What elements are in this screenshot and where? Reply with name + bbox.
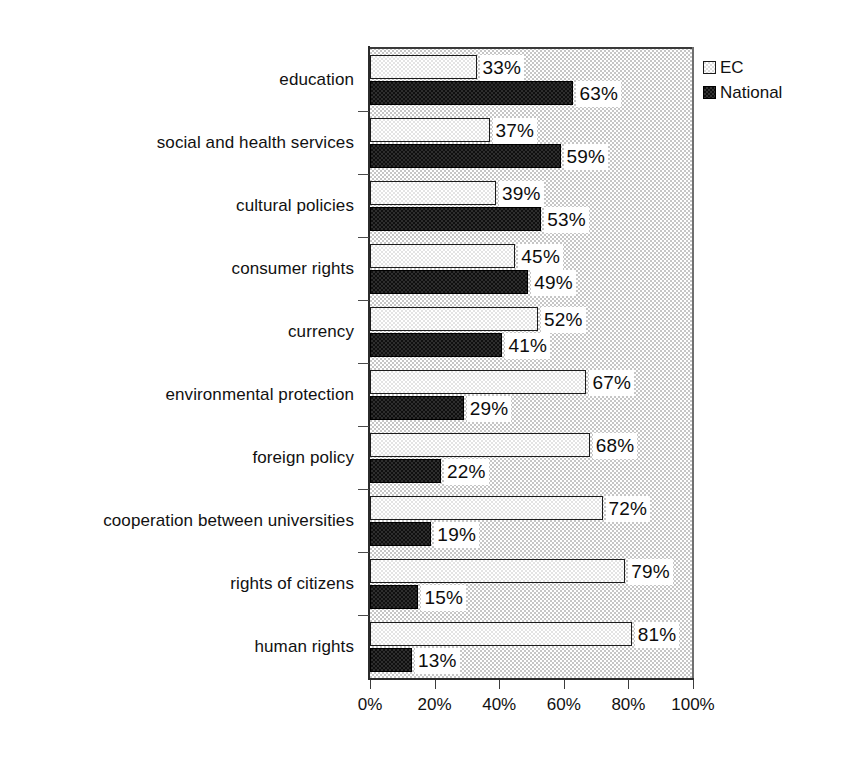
bar-ec [370,244,515,268]
legend-label-national: National [720,83,782,103]
bar-national [370,144,561,168]
bar-ec [370,559,625,583]
x-axis-tick-label: 0% [358,694,383,716]
data-label-national: 29% [467,396,512,422]
x-axis-tick-label: 40% [482,694,516,716]
x-axis-tick [628,680,629,689]
bar-ec [370,370,586,394]
x-axis-tick-label: 100% [671,694,714,716]
y-axis-tick [358,174,369,175]
x-axis-tick [693,680,694,689]
data-label-ec: 45% [518,244,563,270]
y-axis-tick [358,426,369,427]
category-axis-labels: educationsocial and health servicescultu… [0,48,362,678]
x-axis-tick-label: 80% [611,694,645,716]
category-label: cultural policies [0,196,354,216]
bar-ec [370,181,496,205]
data-label-ec: 33% [480,55,525,81]
y-axis-tick [358,489,369,490]
x-axis-tick [499,680,500,689]
bar-national [370,648,412,672]
category-label: consumer rights [0,259,354,279]
x-axis-tick [370,680,371,689]
legend-label-ec: EC [720,58,744,78]
bar-national [370,396,464,420]
bar-national [370,333,502,357]
bar-ec [370,55,477,79]
data-label-ec: 52% [541,307,586,333]
data-label-national: 49% [531,270,576,296]
data-label-ec: 72% [606,496,651,522]
category-label: social and health services [0,133,354,153]
y-axis-tick [358,237,369,238]
y-axis-tick [358,615,369,616]
x-axis-tick [435,680,436,689]
ec-swatch-icon [703,61,716,74]
data-label-ec: 68% [593,433,638,459]
national-swatch-icon [703,86,716,99]
plot-top-border [370,47,694,49]
bar-chart: educationsocial and health servicescultu… [0,0,858,768]
y-axis-tick [358,300,369,301]
chart-legend: EC National [703,55,843,105]
bar-national [370,585,418,609]
bar-national [370,522,431,546]
data-label-ec: 67% [589,370,634,396]
bar-national [370,270,528,294]
x-axis-tick [564,680,565,689]
category-label: environmental protection [0,385,354,405]
bar-ec [370,307,538,331]
legend-item-national: National [703,80,843,105]
data-label-national: 22% [444,459,489,485]
bar-national [370,81,573,105]
data-label-national: 13% [415,648,460,674]
category-label: human rights [0,637,354,657]
y-axis-tick [358,363,369,364]
data-label-national: 15% [421,585,466,611]
data-label-national: 63% [576,81,621,107]
category-label: foreign policy [0,448,354,468]
bar-ec [370,496,603,520]
bar-ec [370,622,632,646]
data-label-ec: 39% [499,181,544,207]
data-label-national: 53% [544,207,589,233]
data-label-national: 19% [434,522,479,548]
category-label: currency [0,322,354,342]
category-label: rights of citizens [0,574,354,594]
data-label-ec: 79% [628,559,673,585]
data-label-national: 59% [564,144,609,170]
category-label: cooperation between universities [0,511,354,531]
y-axis-tick [358,111,369,112]
bar-ec [370,118,490,142]
data-label-ec: 37% [493,118,538,144]
data-label-national: 41% [505,333,550,359]
bar-ec [370,433,590,457]
x-axis-tick-label: 60% [547,694,581,716]
bar-national [370,207,541,231]
category-label: education [0,70,354,90]
y-axis-tick [358,552,369,553]
x-axis-line [368,678,694,680]
data-label-ec: 81% [635,622,680,648]
bar-national [370,459,441,483]
plot-right-border [692,47,694,680]
x-axis-tick-label: 20% [418,694,452,716]
legend-item-ec: EC [703,55,843,80]
